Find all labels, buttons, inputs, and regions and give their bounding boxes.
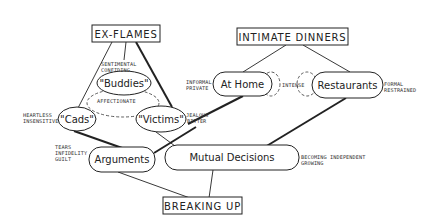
node-mutual-decisions: Mutual Decisions (165, 145, 299, 170)
box-breaking-up: BREAKING UP (163, 197, 242, 214)
node-victims: "Victims" (136, 106, 186, 132)
at-home-label: At Home (221, 79, 264, 90)
relationship-diagram: EX-FLAMES INTIMATE DINNERS BREAKING UP "… (0, 0, 440, 224)
cads-label: "Cads" (60, 114, 94, 125)
annotation-intense: INTENSE (282, 82, 305, 88)
annotation-restrained: RESTRAINED (384, 87, 416, 93)
edge-dinners-athome (243, 45, 286, 72)
edge-victims-mutual (156, 132, 175, 146)
edge-mutual-breakingup (209, 170, 213, 198)
node-restaurants: Restaurants (312, 72, 383, 98)
annotation-bitter: BITTER (187, 118, 207, 124)
edge-restaurants-mutual (260, 98, 346, 150)
mutual-decisions-label: Mutual Decisions (189, 152, 274, 163)
annotation-growing: GROWING (301, 160, 324, 166)
annotation-guilt: GUILT (55, 156, 71, 162)
victims-label: "Victims" (138, 114, 184, 125)
breaking-up-label: BREAKING UP (164, 201, 241, 212)
buddies-label: "Buddies" (99, 78, 148, 89)
annotation-private: PRIVATE (186, 85, 209, 91)
annotation-confiding: CONFIDING (101, 67, 130, 73)
edge-arguments-breakingup (118, 172, 190, 198)
edge-dinners-restaurants (303, 45, 350, 72)
node-at-home: At Home (213, 72, 272, 96)
intimate-dinners-label: INTIMATE DINNERS (239, 32, 347, 43)
ex-flames-label: EX-FLAMES (94, 29, 157, 40)
annotation-affectionate: AFFECTIONATE (97, 98, 136, 104)
node-arguments: Arguments (89, 147, 155, 172)
edge-cads-arguments (74, 131, 125, 149)
edge-exflames-buddies (124, 42, 126, 60)
node-cads: "Cads" (58, 107, 96, 131)
node-buddies: "Buddies" (97, 71, 151, 95)
box-intimate-dinners: INTIMATE DINNERS (237, 28, 348, 45)
arguments-label: Arguments (95, 154, 150, 165)
annotation-insensitive: INSENSITIVE (23, 118, 58, 124)
box-ex-flames: EX-FLAMES (92, 25, 160, 42)
restaurants-label: Restaurants (318, 80, 378, 91)
